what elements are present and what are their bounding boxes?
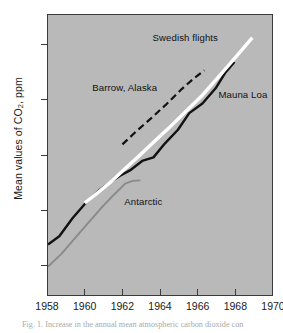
series-label-barrow-alaska: Barrow, Alaska — [92, 82, 157, 93]
x-tick-label: 1962 — [102, 300, 142, 312]
x-tick-mark — [122, 289, 123, 296]
x-tick-label: 1964 — [140, 300, 180, 312]
x-tick-label: 1966 — [178, 300, 218, 312]
x-tick-mark — [235, 289, 236, 296]
series-label-swedish-flights: Swedish flights — [153, 32, 219, 43]
plot-area: Mauna LoaAntarcticSwedish flightsBarrow,… — [47, 14, 273, 296]
plot-svg — [48, 15, 273, 296]
figure-container: Mean values of CO2, ppm 312314316318320 … — [0, 0, 283, 333]
series-line-swedish-flights — [85, 38, 253, 203]
x-tick-label: 1968 — [215, 300, 255, 312]
series-line-antarctic — [48, 180, 140, 266]
x-tick-mark — [197, 289, 198, 296]
figure-caption: Fig. 1. Increase in the annual mean atmo… — [22, 320, 280, 333]
x-tick-mark — [160, 289, 161, 296]
x-tick-label: 1960 — [65, 300, 105, 312]
x-tick-label: 1970 — [253, 300, 283, 312]
y-axis-title-subscript: 2 — [16, 104, 25, 108]
x-tick-label: 1958 — [27, 300, 67, 312]
series-label-mauna-loa: Mauna Loa — [218, 89, 267, 100]
y-axis-title: Mean values of CO2, ppm — [12, 29, 25, 249]
y-axis-title-suffix: , ppm — [12, 77, 24, 104]
y-axis-title-prefix: Mean values of CO — [12, 108, 24, 200]
series-label-antarctic: Antarctic — [124, 196, 162, 207]
x-tick-mark — [84, 289, 85, 296]
